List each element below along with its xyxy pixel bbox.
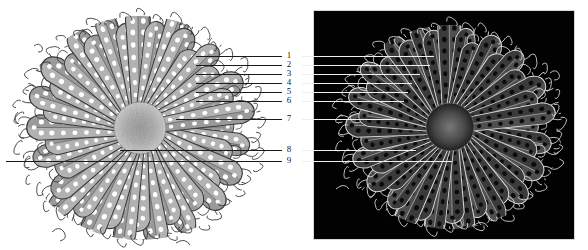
callout-number-column: 1 2 3 4 5 6 7 8 9 xyxy=(282,0,302,250)
leader-line-left-4 xyxy=(196,83,282,84)
specimen-illustration-positive xyxy=(0,0,300,250)
callout-label-9: 9 xyxy=(282,156,296,165)
leader-line-right-9 xyxy=(302,161,452,162)
leader-line-right-2 xyxy=(302,65,430,66)
leader-line-right-7 xyxy=(302,119,396,120)
callout-label-6: 6 xyxy=(282,96,296,105)
callout-label-8: 8 xyxy=(282,145,296,154)
specimen-illustration-negative xyxy=(314,11,574,239)
leader-line-right-4 xyxy=(302,83,412,84)
figure-root: 1 2 3 4 5 6 7 8 9 xyxy=(0,0,588,250)
leader-line-left-9 xyxy=(6,161,282,162)
leader-line-right-3 xyxy=(302,74,420,75)
leader-line-left-7 xyxy=(176,119,282,120)
leader-line-left-6 xyxy=(196,101,282,102)
leader-line-right-5 xyxy=(302,92,408,93)
inverted-negative-panel xyxy=(314,11,574,239)
leader-line-left-5 xyxy=(196,92,282,93)
leader-line-right-8 xyxy=(302,150,416,151)
leader-line-left-2 xyxy=(196,65,282,66)
callout-label-7: 7 xyxy=(282,114,296,123)
leader-line-right-1 xyxy=(302,56,434,57)
leader-line-left-3 xyxy=(196,74,282,75)
leader-line-right-6 xyxy=(302,101,404,102)
leader-line-left-1 xyxy=(196,56,282,57)
leader-line-left-8 xyxy=(120,150,282,151)
grayscale-positive-panel xyxy=(0,0,300,250)
